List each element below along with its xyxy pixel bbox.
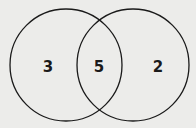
venn-diagram: 3 5 2 <box>0 0 196 128</box>
left-circle <box>10 9 122 121</box>
right-only-count: 2 <box>153 58 163 76</box>
intersection-count: 5 <box>94 58 104 76</box>
left-only-count: 3 <box>43 58 53 76</box>
